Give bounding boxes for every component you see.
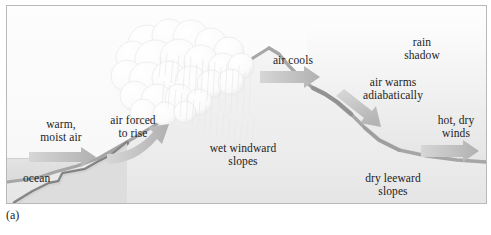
arrow-warm-moist-air	[29, 147, 96, 167]
label-warm-moist-air-line2: moist air	[25, 131, 97, 144]
label-rain-shadow: rain shadow	[391, 36, 453, 62]
label-rain-shadow-line1: rain	[391, 36, 453, 49]
label-hot-dry-winds: hot, dry winds	[427, 114, 485, 140]
figure-caption: (a)	[6, 208, 19, 223]
diagram-panel: warm, moist air ocean air forced to rise…	[6, 5, 487, 204]
arrow-air-cools	[260, 66, 320, 88]
label-air-warms-adiabatically: air warms adiabatically	[347, 76, 439, 102]
label-air-cools-text: air cools	[259, 54, 327, 67]
label-hot-dry-winds-line1: hot, dry	[427, 114, 485, 127]
label-ocean: ocean	[23, 172, 79, 185]
label-wet-windward-slopes: wet windward slopes	[189, 142, 297, 168]
figure-orographic-rain-shadow: warm, moist air ocean air forced to rise…	[0, 0, 491, 235]
label-dry-leeward-line2: slopes	[341, 185, 445, 198]
label-warm-moist-air-line1: warm,	[25, 118, 97, 131]
label-rain-shadow-line2: shadow	[391, 49, 453, 62]
label-wet-windward-line1: wet windward	[189, 142, 297, 155]
label-air-forced-to-rise-line1: air forced	[95, 114, 171, 127]
label-hot-dry-winds-line2: winds	[427, 127, 485, 140]
label-dry-leeward-slopes: dry leeward slopes	[341, 172, 445, 198]
label-air-forced-to-rise: air forced to rise	[95, 114, 171, 140]
label-air-warms-line2: adiabatically	[347, 89, 439, 102]
label-wet-windward-line2: slopes	[189, 155, 297, 168]
label-air-warms-line1: air warms	[347, 76, 439, 89]
label-air-cools: air cools	[259, 54, 327, 67]
label-ocean-text: ocean	[23, 172, 79, 185]
label-warm-moist-air: warm, moist air	[25, 118, 97, 144]
label-air-forced-to-rise-line2: to rise	[95, 127, 171, 140]
arrow-hot-dry-winds	[421, 140, 479, 162]
label-dry-leeward-line1: dry leeward	[341, 172, 445, 185]
